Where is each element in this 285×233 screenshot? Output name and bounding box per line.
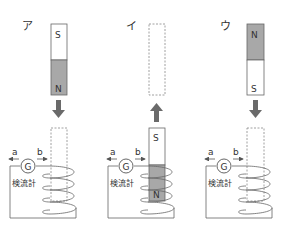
label-a: a — [110, 147, 116, 157]
panel-label: ア — [22, 20, 33, 33]
galvanometer-symbol: G — [25, 162, 32, 172]
coil — [206, 166, 272, 218]
galvanometer: G a b 検流計 — [205, 147, 243, 188]
magnet-position-dashed — [149, 24, 165, 95]
pole-top: S — [153, 133, 159, 143]
label-a: a — [12, 147, 18, 157]
bar-magnet: S N — [51, 24, 67, 95]
arrow-down-icon — [52, 100, 65, 118]
panel-label: イ — [126, 20, 137, 33]
panel-i: イ S N G a b 検流計 — [107, 20, 174, 218]
galvanometer-symbol: G — [221, 162, 228, 172]
bar-magnet: N S — [247, 24, 264, 95]
label-b: b — [233, 147, 239, 157]
panel-label: ウ — [220, 20, 231, 33]
galvanometer-caption: 検流計 — [12, 178, 36, 188]
pole-top: S — [55, 30, 61, 40]
pole-bottom: N — [55, 84, 62, 94]
coil — [10, 166, 76, 218]
galvanometer-caption: 検流計 — [110, 178, 134, 188]
pole-top: N — [251, 30, 258, 40]
arrow-up-icon — [150, 103, 163, 122]
galvanometer-symbol: G — [123, 162, 130, 172]
label-a: a — [208, 147, 214, 157]
galvanometer: G a b 検流計 — [107, 147, 145, 188]
arrow-down-icon — [249, 100, 262, 118]
panel-a: ア S N G a — [9, 20, 76, 218]
induction-diagram: ア S N G a — [0, 0, 285, 233]
label-b: b — [37, 147, 43, 157]
label-b: b — [135, 147, 141, 157]
panel-u: ウ N S G a b 検流計 — [205, 20, 272, 218]
pole-bottom: N — [153, 190, 160, 200]
galvanometer: G a b 検流計 — [9, 147, 47, 188]
pole-bottom: S — [251, 84, 257, 94]
galvanometer-caption: 検流計 — [208, 178, 232, 188]
